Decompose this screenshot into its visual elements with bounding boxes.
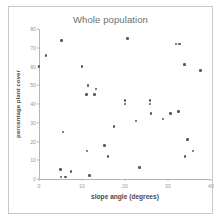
scatter-point xyxy=(192,150,195,153)
x-axis-tick-mark xyxy=(82,179,83,181)
scatter-point xyxy=(124,103,127,106)
y-axis-tick-mark xyxy=(37,85,39,86)
scatter-point xyxy=(107,155,110,158)
y-axis-tick-label: 20 xyxy=(30,139,36,145)
scatter-point xyxy=(60,39,63,42)
y-axis-tick-mark xyxy=(37,122,39,123)
y-axis-tick-label: 40 xyxy=(30,101,36,107)
y-axis-tick-label: 50 xyxy=(30,82,36,88)
scatter-point xyxy=(124,99,127,102)
scatter-point xyxy=(62,131,65,134)
plot-area: 01020304050607080010203040 xyxy=(39,29,211,179)
scatter-point xyxy=(60,176,63,179)
scatter-point xyxy=(59,168,62,171)
chart-title: Whole population xyxy=(9,14,212,25)
x-axis-tick-mark xyxy=(168,179,169,181)
y-axis-label: percentage plant cover xyxy=(14,70,21,138)
scatter-point xyxy=(45,54,48,57)
x-axis-tick-label: 20 xyxy=(122,183,128,189)
y-axis-tick-label: 0 xyxy=(33,176,36,182)
scatter-point xyxy=(177,110,180,113)
scatter-point xyxy=(175,43,178,46)
y-axis-tick-label: 80 xyxy=(30,26,36,32)
scatter-point xyxy=(186,138,189,141)
x-axis-tick-label: 10 xyxy=(79,183,85,189)
y-axis-tick-mark xyxy=(37,104,39,105)
scatter-point xyxy=(85,93,88,96)
scatter-point xyxy=(150,112,153,115)
scatter-point xyxy=(93,93,96,96)
x-axis-tick-mark xyxy=(39,179,40,181)
scatter-point xyxy=(103,144,106,147)
x-axis-tick-label: 30 xyxy=(165,183,171,189)
scatter-point xyxy=(64,176,67,179)
y-axis-tick-label: 30 xyxy=(30,120,36,126)
y-axis-tick-mark xyxy=(37,141,39,142)
x-axis-label: slope angle (degrees) xyxy=(39,193,211,200)
chart-figure: Whole population 01020304050607080010203… xyxy=(8,6,213,214)
scatter-point xyxy=(169,112,172,115)
y-axis-tick-mark xyxy=(37,160,39,161)
scatter-point xyxy=(178,43,181,46)
x-axis-tick-label: 40 xyxy=(208,183,214,189)
y-axis-tick-label: 70 xyxy=(30,45,36,51)
scatter-point xyxy=(38,65,41,68)
x-axis-tick-label: 0 xyxy=(38,183,41,189)
scatter-point xyxy=(113,125,116,128)
scatter-point xyxy=(95,88,98,91)
scatter-point xyxy=(86,150,89,153)
scatter-point xyxy=(149,103,152,106)
y-axis-tick-mark xyxy=(37,29,39,30)
scatter-point xyxy=(135,120,138,123)
scatter-point xyxy=(138,166,141,169)
scatter-point xyxy=(87,84,90,87)
scatter-point xyxy=(184,155,187,158)
y-axis-tick-label: 10 xyxy=(30,157,36,163)
scatter-point xyxy=(126,37,129,40)
scatter-point xyxy=(199,69,202,72)
scatter-point xyxy=(183,63,186,66)
y-axis-tick-label: 60 xyxy=(30,64,36,70)
scatter-point xyxy=(162,118,165,121)
x-axis-tick-mark xyxy=(125,179,126,181)
scatter-point xyxy=(70,170,73,173)
y-axis-tick-mark xyxy=(37,47,39,48)
scatter-point xyxy=(149,99,152,102)
scatter-point xyxy=(88,174,91,177)
scatter-point xyxy=(81,65,84,68)
x-axis-tick-mark xyxy=(211,179,212,181)
